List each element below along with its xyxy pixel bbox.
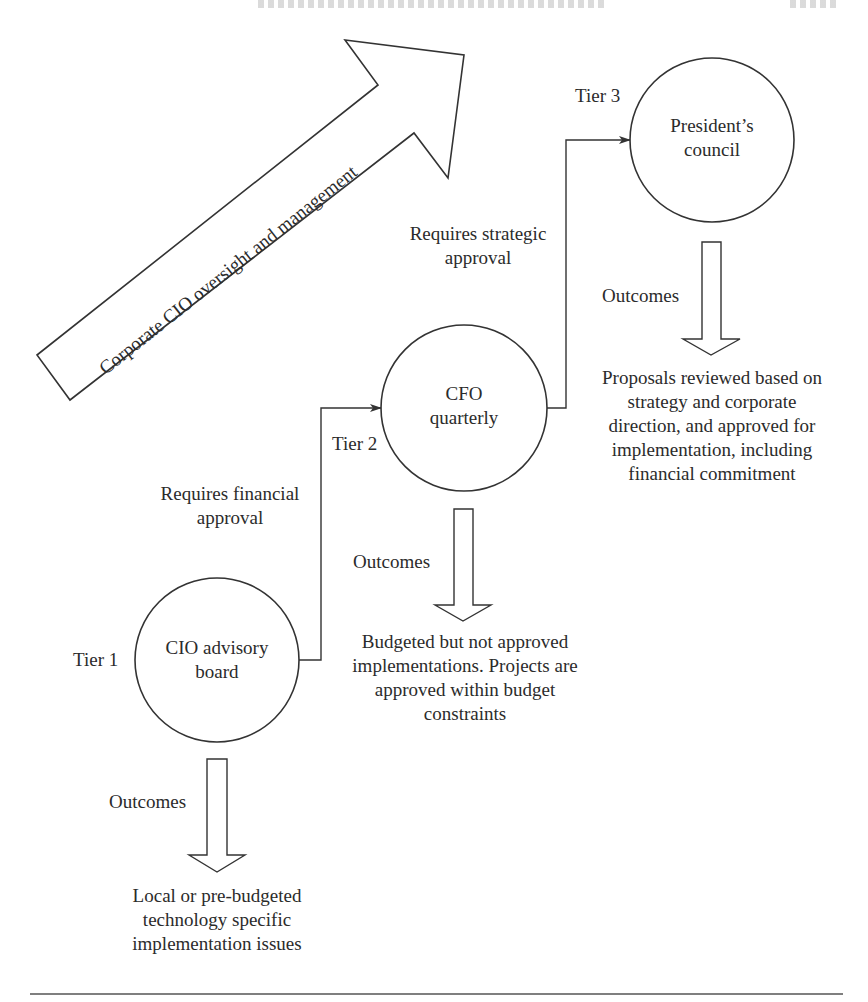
connector-1-label-line-1: Requires financial bbox=[150, 482, 310, 506]
tier1-node-line-2: board bbox=[147, 660, 287, 684]
tier2-outcome-line-1: Budgeted but not approved bbox=[330, 630, 600, 654]
tier3-label: Tier 3 bbox=[575, 84, 620, 108]
tier1-outcome-line-1: Local or pre-budgeted bbox=[107, 884, 327, 908]
tier1-outcome-text: Local or pre-budgeted technology specifi… bbox=[107, 884, 327, 956]
tier2-outcome-arrow bbox=[435, 509, 491, 621]
tier2-outcome-line-4: constraints bbox=[330, 702, 600, 726]
tier3-outcome-line-4: implementation, including bbox=[572, 438, 852, 462]
tier2-outcome-line-2: implementations. Projects are bbox=[330, 654, 600, 678]
tier3-outcome-line-2: strategy and corporate bbox=[572, 390, 852, 414]
tier2-node-text: CFO quarterly bbox=[394, 382, 534, 430]
tier2-node-line-2: quarterly bbox=[394, 406, 534, 430]
tier2-outcome-line-3: approved within budget bbox=[330, 678, 600, 702]
tier3-outcome-line-1: Proposals reviewed based on bbox=[572, 366, 852, 390]
connector-1-label: Requires financial approval bbox=[150, 482, 310, 530]
connector-2-label: Requires strategic approval bbox=[398, 222, 558, 270]
tier1-node-text: CIO advisory board bbox=[147, 636, 287, 684]
tier3-node-line-1: President’s bbox=[642, 114, 782, 138]
diagram-canvas: Corporate CIO oversight and management T… bbox=[0, 0, 868, 1002]
oversight-arrow-shape bbox=[37, 40, 464, 400]
connector-2-label-line-2: approval bbox=[398, 246, 558, 270]
tier3-outcome-line-3: direction, and approved for bbox=[572, 414, 852, 438]
tier2-node-line-1: CFO bbox=[394, 382, 534, 406]
tier2-outcomes-label: Outcomes bbox=[353, 550, 430, 574]
tier1-outcome-line-2: technology specific bbox=[107, 908, 327, 932]
tier3-node-line-2: council bbox=[642, 138, 782, 162]
tier2-outcome-text: Budgeted but not approved implementation… bbox=[330, 630, 600, 726]
connector-2-label-line-1: Requires strategic bbox=[398, 222, 558, 246]
tier3-outcomes-label: Outcomes bbox=[602, 284, 679, 308]
tier3-outcome-arrow bbox=[683, 242, 740, 355]
tier1-outcome-line-3: implementation issues bbox=[107, 932, 327, 956]
tier2-label: Tier 2 bbox=[332, 432, 377, 456]
tier1-node-line-1: CIO advisory bbox=[147, 636, 287, 660]
connector-1-label-line-2: approval bbox=[150, 506, 310, 530]
tier1-label: Tier 1 bbox=[73, 648, 118, 672]
tier3-node-text: President’s council bbox=[642, 114, 782, 162]
tier3-outcome-text: Proposals reviewed based on strategy and… bbox=[572, 366, 852, 486]
tier1-outcomes-label: Outcomes bbox=[109, 790, 186, 814]
tier3-outcome-line-5: financial commitment bbox=[572, 462, 852, 486]
tier1-outcome-arrow bbox=[189, 759, 245, 872]
